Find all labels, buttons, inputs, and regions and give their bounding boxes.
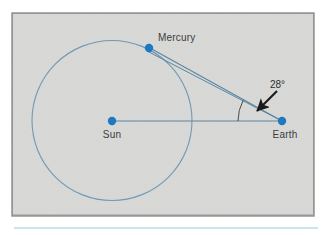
- mercury-dot: [145, 44, 153, 52]
- mercury-label: Mercury: [158, 32, 196, 43]
- earth-label: Earth: [273, 129, 298, 140]
- astronomy-diagram: Sun Mercury Earth 28°: [0, 0, 326, 235]
- sun-label: Sun: [103, 129, 121, 140]
- figure-root: Sun Mercury Earth 28°: [0, 0, 326, 235]
- earth-dot: [278, 117, 286, 125]
- elongation-angle-label: 28°: [270, 79, 285, 90]
- sun-dot: [108, 117, 116, 125]
